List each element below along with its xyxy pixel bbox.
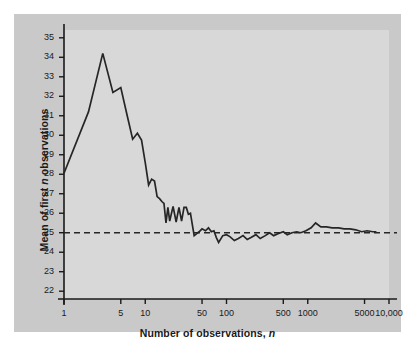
x-tick-label: 1000 (283, 308, 333, 318)
x-axis-title: Number of observations, n (14, 327, 401, 339)
chart-plot-area (14, 14, 401, 332)
x-tick-label: 10,000 (364, 308, 414, 318)
x-tick-label: 1 (39, 308, 89, 318)
x-tick-label: 100 (202, 308, 252, 318)
y-axis-title: Mean of first n observations (38, 80, 50, 280)
figure-container: 3534333231302928272625242322 15105010050… (0, 0, 415, 348)
y-tick-label: 22 (22, 285, 54, 295)
y-tick-label: 35 (22, 32, 54, 42)
y-tick-label: 34 (22, 51, 54, 61)
chart-panel: 3534333231302928272625242322 15105010050… (14, 14, 401, 332)
plot-background (64, 30, 389, 299)
x-tick-label: 10 (120, 308, 170, 318)
